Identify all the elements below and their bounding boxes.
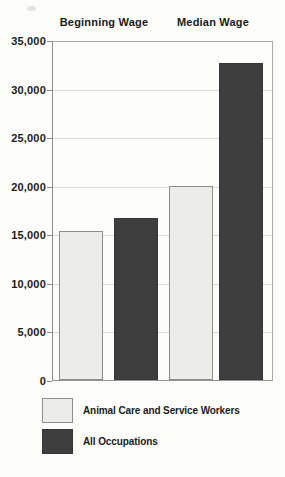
y-axis-tick [47, 138, 52, 139]
y-axis-tick [47, 41, 52, 42]
y-axis-label: 15,000 [6, 229, 46, 241]
group-label-beginning-wage: Beginning Wage [60, 16, 149, 28]
legend-label-all-occupations: All Occupations [83, 436, 158, 447]
legend-label-animal-care: Animal Care and Service Workers [83, 405, 240, 416]
plot-area [52, 41, 273, 381]
legend-swatch-all-occupations [42, 429, 73, 454]
y-axis-label: 5,000 [6, 326, 46, 338]
bar-beginning-wage-all-occupations [114, 218, 158, 380]
scan-artifact [27, 6, 36, 11]
legend-swatch-animal-care [42, 398, 73, 423]
y-axis-tick [47, 235, 52, 236]
y-axis-label: 35,000 [6, 35, 46, 47]
bar-beginning-wage-animal-care-and-service-workers [59, 231, 103, 380]
bar-median-wage-all-occupations [219, 63, 263, 380]
y-axis-label: 30,000 [6, 84, 46, 96]
y-axis-label: 10,000 [6, 278, 46, 290]
legend-item-all-occupations: All Occupations [42, 429, 158, 454]
y-axis-tick [47, 187, 52, 188]
bar-median-wage-animal-care-and-service-workers [169, 186, 213, 380]
y-axis-tick [47, 284, 52, 285]
y-axis-tick [47, 381, 52, 382]
y-axis-label: 25,000 [6, 132, 46, 144]
y-axis-tick [47, 90, 52, 91]
wage-bar-chart: Beginning Wage Median Wage 05,00010,0001… [0, 0, 285, 477]
y-axis-tick [47, 332, 52, 333]
y-axis-label: 0 [6, 375, 46, 387]
y-axis-label: 20,000 [6, 181, 46, 193]
group-label-median-wage: Median Wage [177, 16, 249, 28]
legend-item-animal-care: Animal Care and Service Workers [42, 398, 240, 423]
